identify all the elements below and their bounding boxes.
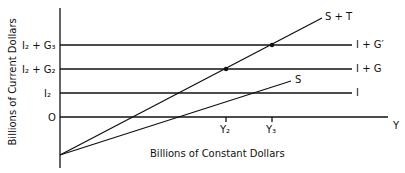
tick-label-zero: O: [48, 112, 56, 124]
label-s-plus-t: S + T: [325, 11, 352, 23]
tick-label-i2-g2: I₂ + G₂: [22, 64, 55, 76]
y-axis-label: Billions of Current Dollars: [7, 26, 18, 146]
intersection-point-y2: [224, 67, 228, 71]
x-axis-label: Billions of Constant Dollars: [150, 148, 285, 159]
intersection-point-y3: [270, 43, 274, 47]
tick-label-i2-g3: I₂ + G₃: [22, 40, 55, 52]
tick-label-i2: I₂: [44, 88, 51, 100]
diagram-canvas: Billions of Current Dollars I₂ + G₃ I₂ +…: [0, 0, 405, 173]
label-i-plus-g: I + G: [356, 63, 381, 75]
label-i-plus-g-prime: I + G′: [356, 39, 384, 51]
label-i: I: [356, 87, 359, 99]
x-axis-end-label: Y: [393, 120, 399, 132]
tick-label-y3: Y₃: [266, 124, 276, 136]
line-s-plus-t: [60, 18, 322, 155]
label-s: S: [295, 74, 301, 86]
line-s: [60, 81, 291, 155]
tick-label-y2: Y₂: [220, 124, 230, 136]
